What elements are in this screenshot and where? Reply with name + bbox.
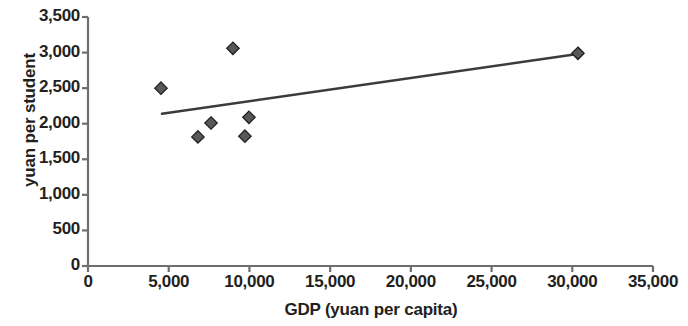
data-point-marker <box>155 82 167 94</box>
data-point-marker <box>192 131 204 143</box>
data-point-marker <box>227 42 239 54</box>
data-point-marker <box>239 130 251 142</box>
data-points <box>155 42 584 143</box>
data-point-marker <box>205 117 217 129</box>
data-point-marker <box>572 47 584 59</box>
data-point-marker <box>243 111 255 123</box>
trendline-path <box>162 53 583 113</box>
scatter-chart: yuan per student GDP (yuan per capita) 0… <box>0 0 688 326</box>
trendline <box>162 53 583 113</box>
plot-area <box>0 0 688 326</box>
